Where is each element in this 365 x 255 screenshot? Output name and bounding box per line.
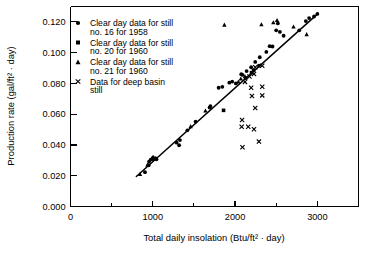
data-point [258,55,262,59]
data-point [208,104,212,108]
x-tick-label: 3000 [307,212,327,222]
legend-square-icon [76,41,80,45]
data-point [271,45,275,49]
y-tick-label: 0.080 [43,79,66,89]
x-tick-label: 1000 [143,212,163,222]
legend-circle-icon [76,21,80,25]
chart-figure: 0.0000.0200.0400.0600.0800.1000.120 0100… [0,0,365,255]
data-point [155,157,159,161]
legend-label-line2: no. 20 for 1960 [90,46,148,56]
data-point [312,15,316,19]
legend-label-line2: no. 21 for 1960 [90,66,148,76]
data-point [220,85,224,89]
data-point [143,170,147,174]
data-point [177,143,181,147]
y-tick-label: 0.020 [43,171,66,181]
data-point [185,128,189,132]
data-point [264,50,268,54]
legend-label-line2: still [90,85,103,95]
data-point [276,22,280,26]
data-point [307,16,311,20]
y-tick-label: 0.100 [43,48,66,58]
x-axis-title: Total daily insolation (Btu/ft² · day) [143,232,284,243]
y-tick-label: 0.120 [43,17,66,27]
legend-label-line2: no. 16 for 1958 [90,27,148,37]
y-tick-label: 0.040 [43,140,66,150]
data-point [222,109,226,113]
y-tick-label: 0.000 [43,202,66,212]
data-point [178,138,182,142]
data-point [253,60,257,64]
data-point [217,86,221,90]
data-point [230,80,234,84]
data-point [282,34,286,38]
data-point [297,28,301,32]
y-tick-label: 0.060 [43,109,66,119]
data-point [304,19,308,23]
data-point [245,69,249,73]
x-tick-label: 2000 [225,212,245,222]
y-axis-title: Production rate (gal/ft² · day) [5,46,16,165]
data-point [278,30,282,34]
scatter-plot: 0.0000.0200.0400.0600.0800.1000.120 0100… [0,0,365,255]
data-point [315,12,319,16]
data-point [194,120,198,124]
data-point [274,28,278,32]
x-tick-label: 0 [68,212,73,222]
